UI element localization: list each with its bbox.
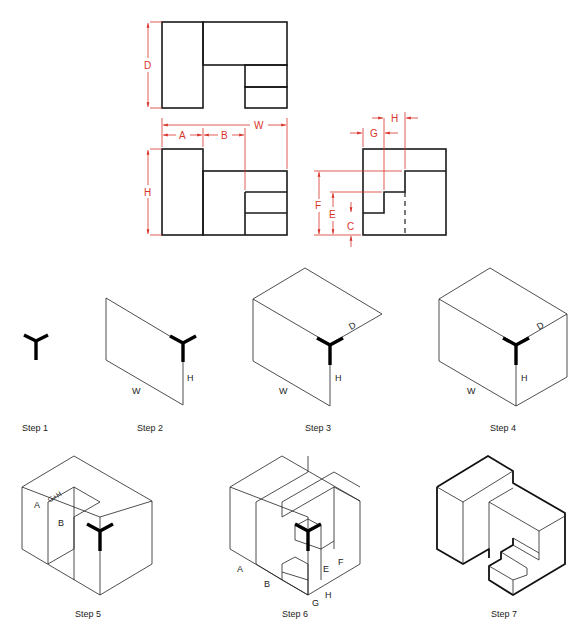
dim-label-a: A	[179, 130, 186, 141]
side-view: G H F E C	[314, 112, 446, 247]
dim-label-b: B	[221, 130, 228, 141]
step-4-h-label: H	[521, 373, 528, 383]
dim-label-h-side: H	[391, 113, 398, 124]
step-3-d-label: D	[347, 320, 358, 332]
isometric-drawing-diagram: D W A B H	[0, 0, 586, 631]
step-2-label: Step 2	[137, 423, 163, 433]
step-4-w-label: W	[467, 386, 476, 396]
step-6-e-label: E	[323, 564, 329, 574]
step-3: W H D Step 3	[253, 268, 382, 433]
step-5-label: Step 5	[75, 609, 101, 619]
step-3-h-label: H	[335, 373, 342, 383]
step-7-label: Step 7	[491, 609, 517, 619]
step-4: W H D Step 4	[439, 268, 567, 433]
top-view: D	[144, 22, 287, 108]
step-2-h-label: H	[187, 373, 194, 383]
step-5: A B G+H Step 5	[22, 456, 152, 619]
dim-label-h: H	[144, 187, 151, 198]
step-4-label: Step 4	[490, 423, 516, 433]
step-6-g-label: G	[312, 598, 319, 608]
step-4-d-label: D	[535, 320, 546, 332]
step-3-w-label: W	[279, 386, 288, 396]
dim-label-c: C	[347, 221, 354, 232]
step-6-f-label: F	[338, 557, 344, 567]
front-view: W A B H	[144, 118, 287, 235]
dim-label-g: G	[370, 128, 378, 139]
step-6-h-label: H	[325, 590, 332, 600]
step-6-b-label: B	[264, 579, 270, 589]
step-6-label: Step 6	[282, 609, 308, 619]
step-7: Step 7	[437, 456, 565, 619]
step-5-a-label: A	[34, 500, 40, 510]
step-3-label: Step 3	[305, 423, 331, 433]
step-1-label: Step 1	[22, 423, 48, 433]
step-6: A B E F G H Step 6	[230, 456, 360, 619]
step-5-b-label: B	[58, 518, 64, 528]
isometric-axes-icon	[24, 335, 48, 360]
dim-label-e: E	[329, 209, 336, 220]
dim-label-d: D	[144, 60, 151, 71]
dim-label-w: W	[254, 120, 264, 131]
step-2: W H Step 2	[106, 298, 196, 433]
step-2-w-label: W	[132, 386, 141, 396]
dim-label-f: F	[315, 200, 321, 211]
step-6-a-label: A	[237, 564, 243, 574]
step-1: Step 1	[22, 335, 48, 433]
